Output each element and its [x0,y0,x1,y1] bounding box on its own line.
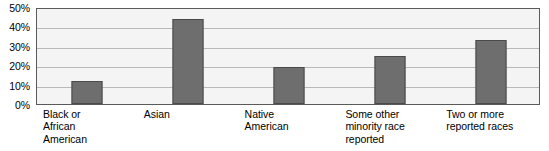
y-axis: 0%10%20%30%40%50% [0,8,34,105]
x-axis-label-line: reported [345,133,440,145]
y-axis-tick-label: 20% [9,60,30,72]
bar[interactable] [475,40,506,104]
y-axis-tick-label: 50% [9,2,30,14]
y-axis-tick-label: 0% [15,99,30,111]
bar-slot [339,9,440,104]
x-axis-label-line: Asian [144,108,239,120]
bar[interactable] [72,81,103,104]
x-axis-label-line: reported races [446,120,541,132]
x-axis-label-line: Black or [43,108,138,120]
bar-slot [37,9,138,104]
x-axis-label-line: Native [245,108,340,120]
x-axis-label-line: minority race [345,120,440,132]
x-axis-label-line: Two or more [446,108,541,120]
x-axis-label-line: American [43,133,138,145]
y-axis-tick-label: 10% [9,80,30,92]
x-axis-labels: Black orAfricanAmericanAsianNativeAmeric… [36,108,540,151]
bar-chart: 0%10%20%30%40%50% Black orAfricanAmerica… [0,0,549,151]
x-axis-label-line: Some other [345,108,440,120]
x-axis-label-line: African [43,120,138,132]
x-axis-category-label: Asian [144,108,239,120]
bar-slot [440,9,541,104]
bar[interactable] [273,67,304,104]
plot-area [36,8,540,105]
bar-slot [138,9,239,104]
y-axis-tick-label: 40% [9,21,30,33]
bar-slot [239,9,340,104]
bar[interactable] [374,56,405,105]
x-axis-category-label: NativeAmerican [245,108,340,133]
y-axis-tick-label: 30% [9,41,30,53]
x-axis-label-line: American [245,120,340,132]
x-axis-category-label: Two or morereported races [446,108,541,133]
bar[interactable] [173,19,204,104]
x-axis-category-label: Black orAfricanAmerican [43,108,138,145]
x-axis-category-label: Some otherminority racereported [345,108,440,145]
bar-series [37,9,539,104]
